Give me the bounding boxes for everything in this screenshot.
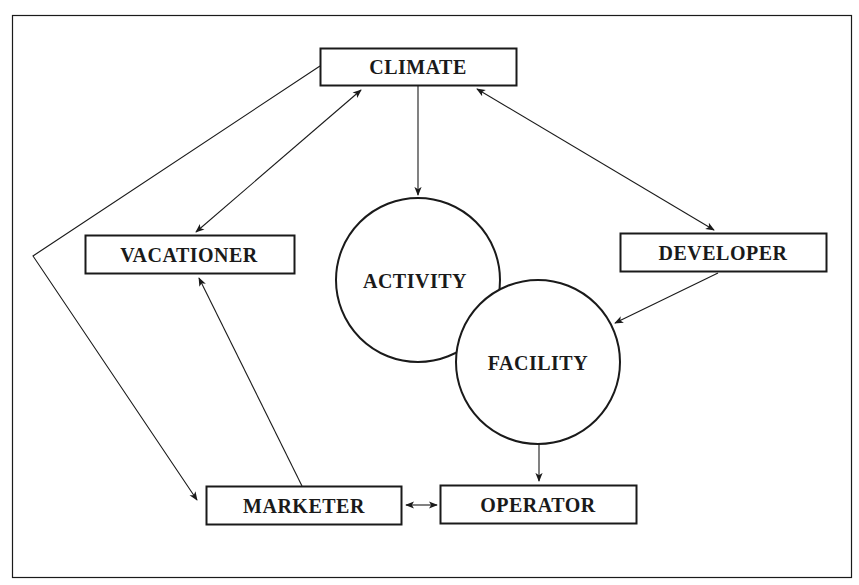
marketer-label: MARKETER: [243, 495, 365, 517]
node-operator[interactable]: OPERATOR: [441, 486, 637, 524]
operator-label: OPERATOR: [480, 494, 596, 516]
node-marketer[interactable]: MARKETER: [207, 487, 402, 525]
edge-climate-vacationer: [196, 90, 361, 232]
vacationer-label: VACATIONER: [120, 244, 258, 266]
node-vacationer[interactable]: VACATIONER: [86, 236, 295, 274]
diagram-canvas: ACTIVITY FACILITY CLIMATE VACATIONER DEV…: [0, 0, 859, 585]
edge-developer-facility: [615, 273, 718, 323]
activity-label: ACTIVITY: [363, 270, 467, 292]
edge-climate-developer: [477, 89, 714, 230]
node-climate[interactable]: CLIMATE: [321, 49, 517, 86]
climate-label: CLIMATE: [369, 56, 467, 78]
edge-marketer-vacationer: [199, 278, 302, 486]
node-facility[interactable]: FACILITY: [456, 280, 620, 444]
diagram-svg: ACTIVITY FACILITY CLIMATE VACATIONER DEV…: [0, 0, 859, 585]
facility-label: FACILITY: [488, 352, 588, 374]
developer-label: DEVELOPER: [659, 242, 788, 264]
node-developer[interactable]: DEVELOPER: [621, 234, 827, 272]
